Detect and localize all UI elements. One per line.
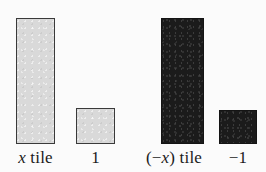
algebra-tiles-figure: x tile 1 (−x) tile −1: [0, 0, 266, 172]
one-tile-label: 1: [76, 146, 115, 170]
x-tile-shape: [16, 18, 55, 144]
one-tile-shape: [76, 108, 115, 144]
one-tile-label-prefix: 1: [91, 148, 100, 167]
x-tile-label: x tile: [5, 146, 66, 170]
negative-x-tile-label-suffix: ) tile: [169, 148, 202, 167]
x-tile-label-suffix: tile: [26, 148, 53, 167]
negative-one-tile-label-prefix: −1: [229, 148, 248, 167]
negative-x-tile-label: (−x) tile: [140, 146, 208, 170]
negative-one-tile-shape: [219, 110, 257, 144]
negative-x-tile-shape: [161, 18, 204, 144]
negative-one-tile-label: −1: [216, 146, 260, 170]
negative-x-tile-label-prefix: (−: [146, 148, 162, 167]
x-tile-label-variable: x: [18, 148, 26, 167]
